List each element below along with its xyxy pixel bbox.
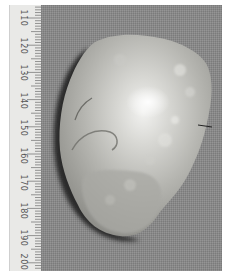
specimen-highlight: [126, 86, 170, 118]
specimen-photo: 110 120 130 140 150 160 170 180 190 200: [0, 0, 230, 279]
tissue-specimen: [0, 0, 230, 279]
